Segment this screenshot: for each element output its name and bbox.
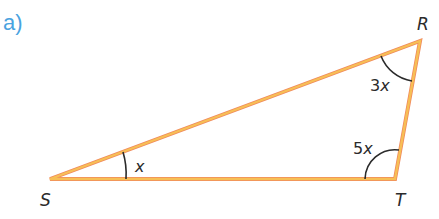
vertex-label-T: T	[395, 190, 407, 210]
angle-label-T: 5x	[353, 139, 373, 158]
angle-label-R: 3x	[370, 76, 390, 95]
vertex-label-R: R	[417, 14, 429, 34]
triangle-sides	[50, 41, 420, 179]
angle-T-var: x	[362, 139, 373, 158]
angle-R-coef: 3	[370, 76, 380, 95]
angle-S-var: x	[134, 157, 145, 176]
angle-arc-S	[123, 152, 126, 179]
angle-T-coef: 5	[353, 139, 363, 158]
vertex-label-S: S	[40, 190, 51, 210]
angle-label-S: x	[134, 157, 145, 176]
triangle-diagram: S R T x 3x 5x	[0, 0, 439, 219]
angle-R-var: x	[379, 76, 390, 95]
